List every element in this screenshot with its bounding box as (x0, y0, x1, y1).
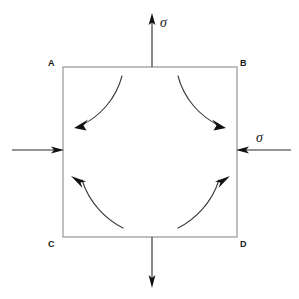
curve-top-right-head-icon (212, 120, 226, 131)
curve-bottom-left (71, 176, 123, 228)
corner-label-a: A (48, 58, 55, 68)
right-compression-arrow (236, 147, 291, 154)
curve-top-right (178, 76, 226, 131)
corner-label-d: D (240, 239, 247, 249)
curve-bottom-right (178, 176, 230, 228)
element-square-outline (63, 67, 237, 237)
bottom-tension-arrow (149, 237, 156, 288)
curve-top-right-path (178, 76, 218, 125)
corner-label-c: C (48, 239, 55, 249)
top-sigma-label: σ (160, 15, 168, 30)
curve-bottom-left-path (82, 180, 123, 228)
diagram-canvas: σ σ (0, 0, 299, 299)
curve-bottom-right-path (178, 180, 219, 228)
right-sigma-label: σ (256, 130, 264, 145)
stress-element-diagram: σ σ (0, 0, 299, 299)
curve-top-left-path (82, 76, 122, 125)
curve-top-left (74, 76, 122, 131)
corner-label-b: B (240, 58, 247, 68)
curve-top-left-head-icon (74, 120, 88, 131)
left-compression-arrow (12, 147, 64, 154)
top-tension-arrow (149, 13, 156, 67)
